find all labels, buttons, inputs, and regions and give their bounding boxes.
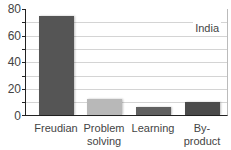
y-tick-label-60: 60 xyxy=(1,30,21,42)
y-tick xyxy=(22,36,26,37)
y-tick xyxy=(22,22,26,23)
x-label-freudian: Freudian xyxy=(29,122,83,135)
x-label-text: Problem xyxy=(84,122,125,134)
x-label-by-product: By- product xyxy=(175,122,229,148)
bar-freudian xyxy=(39,16,74,115)
y-tick xyxy=(22,76,26,77)
y-tick xyxy=(22,102,26,103)
y-tick xyxy=(22,89,26,90)
bar-learning xyxy=(136,107,171,115)
legend-label: India xyxy=(193,22,221,34)
x-label-problem-solving: Problem solving xyxy=(77,122,131,148)
y-tick xyxy=(22,49,26,50)
x-label-learning: Learning xyxy=(126,122,180,135)
y-tick xyxy=(22,115,26,116)
bar-chart: 80 60 40 20 0 India Freudian Problem s xyxy=(0,0,231,150)
y-tick xyxy=(22,9,26,10)
x-label-text: Freudian xyxy=(34,122,77,134)
y-tick xyxy=(22,62,26,63)
y-tick-label-0: 0 xyxy=(1,110,21,122)
x-label-text: By- xyxy=(194,122,211,134)
bar-by-product xyxy=(185,102,220,115)
x-label-text: Learning xyxy=(132,122,175,134)
bar-problem-solving xyxy=(87,99,122,115)
x-label-text: product xyxy=(184,135,221,147)
plot-area: India xyxy=(25,9,228,116)
y-tick-label-40: 40 xyxy=(1,56,21,68)
y-tick-label-80: 80 xyxy=(1,3,21,15)
y-tick-label-20: 20 xyxy=(1,83,21,95)
x-label-text: solving xyxy=(87,135,121,147)
